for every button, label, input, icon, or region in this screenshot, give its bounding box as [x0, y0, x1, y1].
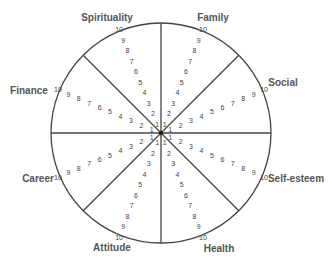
scale-number: 5	[138, 181, 142, 188]
scale-number: 1	[163, 139, 167, 146]
scale-number: 8	[193, 47, 197, 54]
scale-number: 10	[199, 233, 207, 240]
scale-number: 9	[121, 36, 125, 43]
center-dot	[159, 131, 163, 135]
scale-number: 10	[54, 86, 62, 93]
scale-number: 8	[126, 212, 130, 219]
scale-number: 2	[179, 138, 183, 145]
wheel-diagram	[0, 0, 333, 262]
scale-number: 3	[189, 142, 193, 149]
scale-number: 9	[197, 223, 201, 230]
scale-number: 5	[180, 78, 184, 85]
scale-number: 9	[197, 36, 201, 43]
scale-number: 7	[87, 160, 91, 167]
scale-number: 5	[180, 181, 184, 188]
scale-number: 10	[54, 173, 62, 180]
scale-number: 2	[139, 138, 143, 145]
scale-number: 2	[151, 110, 155, 117]
label-health: Health	[204, 243, 235, 254]
sector-dividers	[51, 23, 271, 243]
scale-number: 1	[168, 133, 172, 140]
scale-number: 5	[138, 78, 142, 85]
scale-number: 3	[129, 142, 133, 149]
label-self-esteem: Self-esteem	[268, 173, 324, 184]
scale-number: 8	[126, 47, 130, 54]
scale-number: 8	[241, 164, 245, 171]
scale-number: 6	[184, 191, 188, 198]
scale-number: 8	[77, 95, 81, 102]
divider-line	[161, 133, 239, 211]
scale-number: 8	[77, 164, 81, 171]
scale-number: 2	[151, 149, 155, 156]
label-attitude: Attitude	[93, 242, 131, 253]
scale-number: 9	[252, 169, 256, 176]
scale-number: 5	[210, 151, 214, 158]
scale-number: 10	[199, 26, 207, 33]
label-social: Social	[268, 77, 297, 88]
divider-line	[83, 55, 161, 133]
scale-number: 1	[163, 120, 167, 127]
label-finance: Finance	[10, 85, 48, 96]
scale-number: 8	[193, 212, 197, 219]
scale-number: 6	[220, 156, 224, 163]
scale-number: 6	[134, 68, 138, 75]
scale-number: 4	[200, 112, 204, 119]
divider-line	[83, 133, 161, 211]
scale-number: 6	[134, 191, 138, 198]
scale-number: 4	[119, 112, 123, 119]
scale-number: 4	[143, 170, 147, 177]
scale-number: 5	[108, 108, 112, 115]
scale-number: 7	[130, 202, 134, 209]
scale-number: 7	[188, 57, 192, 64]
scale-number: 7	[231, 99, 235, 106]
scale-number: 1	[155, 139, 159, 146]
scale-number: 4	[200, 147, 204, 154]
scale-number: 2	[179, 121, 183, 128]
scale-number: 4	[176, 170, 180, 177]
scale-number: 9	[252, 90, 256, 97]
scale-number: 3	[147, 160, 151, 167]
scale-number: 3	[171, 99, 175, 106]
scale-number: 2	[167, 149, 171, 156]
scale-number: 9	[66, 169, 70, 176]
label-family: Family	[197, 12, 229, 23]
scale-number: 7	[188, 202, 192, 209]
label-spirituality: Spirituality	[81, 12, 133, 23]
scale-number: 6	[98, 156, 102, 163]
scale-number: 2	[139, 121, 143, 128]
scale-number: 6	[98, 103, 102, 110]
scale-number: 4	[143, 89, 147, 96]
scale-number: 8	[241, 95, 245, 102]
scale-number: 2	[167, 110, 171, 117]
scale-number: 1	[155, 120, 159, 127]
scale-number: 5	[210, 108, 214, 115]
divider-line	[161, 55, 239, 133]
scale-number: 3	[147, 99, 151, 106]
scale-number: 10	[260, 86, 268, 93]
scale-number: 1	[168, 126, 172, 133]
scale-number: 7	[87, 99, 91, 106]
scale-number: 3	[129, 117, 133, 124]
scale-number: 1	[150, 133, 154, 140]
scale-number: 3	[189, 117, 193, 124]
scale-number: 10	[260, 173, 268, 180]
scale-number: 9	[66, 90, 70, 97]
scale-number: 5	[108, 151, 112, 158]
scale-number: 9	[121, 223, 125, 230]
scale-number: 7	[130, 57, 134, 64]
scale-number: 6	[220, 103, 224, 110]
label-career: Career	[22, 173, 54, 184]
scale-number: 10	[115, 233, 123, 240]
scale-number: 1	[150, 126, 154, 133]
scale-number: 3	[171, 160, 175, 167]
scale-number: 6	[184, 68, 188, 75]
scale-number: 4	[176, 89, 180, 96]
scale-number: 4	[119, 147, 123, 154]
scale-number: 10	[115, 26, 123, 33]
scale-number: 7	[231, 160, 235, 167]
